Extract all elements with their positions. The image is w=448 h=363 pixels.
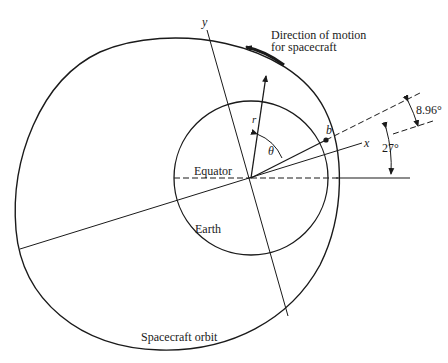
x-extension-dashed <box>393 121 433 134</box>
spacecraft-orbit-curve <box>15 38 339 350</box>
x-axis <box>20 143 362 249</box>
orbit-label: Spacecraft orbit <box>141 330 218 344</box>
equator-label: Equator <box>194 164 232 178</box>
theta-label: θ <box>268 144 274 158</box>
angle-27-label: 27° <box>382 141 399 155</box>
earth-label: Earth <box>195 222 221 236</box>
direction-label-line2: for spacecraft <box>271 40 337 54</box>
radius-vector <box>251 76 266 178</box>
x-axis-label: x <box>363 136 370 150</box>
angle-896-label: 8.96° <box>416 103 442 117</box>
point-b <box>323 137 328 142</box>
b-extension-dashed <box>326 92 422 140</box>
radius-label: r <box>252 113 257 125</box>
line-to-b <box>251 140 326 178</box>
y-axis-label: y <box>201 15 208 29</box>
point-b-label: b <box>326 123 332 137</box>
orbit-diagram: Direction of motion for spacecraft y x r… <box>0 0 448 363</box>
